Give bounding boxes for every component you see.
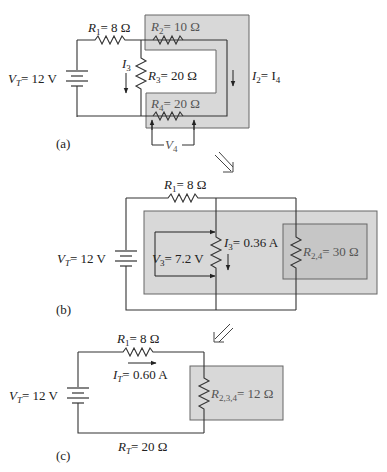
it-label-c: IT= 0.60 A: [112, 367, 168, 384]
r3-resistor-a: [136, 40, 146, 116]
r24-label-b: R2,4= 30 Ω: [302, 244, 359, 261]
v4-label-a: V4: [165, 137, 178, 154]
battery-a: [66, 71, 88, 86]
part-b: R1= 8 Ω V3= 7.2 V I3= 0.36 A R2,4= 30 Ω …: [56, 177, 377, 317]
wire-left-c: [78, 352, 204, 433]
double-arrow-down-left-icon: [214, 324, 233, 342]
vt-label-a: VT= 12 V: [8, 71, 58, 88]
r1-resistor-c: [78, 348, 204, 356]
i2-i4-label-a: I2= I4: [251, 68, 281, 85]
part-c: R1= 8 Ω IT= 0.60 A R2,3,4= 12 Ω VT= 12 V…: [9, 331, 283, 463]
r4-label-a: R4= 20 Ω: [150, 96, 200, 113]
i3-label-a: I3: [121, 56, 131, 73]
double-arrow-down-right-icon: [215, 152, 233, 172]
battery-c: [67, 388, 89, 403]
part-b-label: (b): [56, 302, 71, 317]
part-c-label: (c): [56, 448, 70, 463]
r1-label-c: R1= 8 Ω: [116, 331, 159, 348]
r3-label-a: R3= 20 Ω: [147, 68, 197, 85]
part-a-label: (a): [56, 136, 70, 151]
v3-label-b: V3= 7.2 V: [152, 251, 204, 268]
rt-label-c: RT= 20 Ω: [117, 439, 167, 456]
r1-label-b: R1= 8 Ω: [163, 177, 206, 194]
vt-label-b: VT= 12 V: [57, 251, 107, 268]
vt-label-c: VT= 12 V: [9, 388, 59, 405]
part-a: R1= 8 Ω R2= 10 Ω R3= 20 Ω R4= 20 Ω I3 I2…: [8, 15, 281, 154]
circuit-diagram: R1= 8 Ω R2= 10 Ω R3= 20 Ω R4= 20 Ω I3 I2…: [0, 0, 387, 472]
r1-label-a: R1= 8 Ω: [87, 20, 130, 37]
r1-resistor-b: [126, 194, 296, 202]
battery-b: [115, 251, 137, 266]
r2-label-a: R2= 10 Ω: [150, 19, 200, 36]
